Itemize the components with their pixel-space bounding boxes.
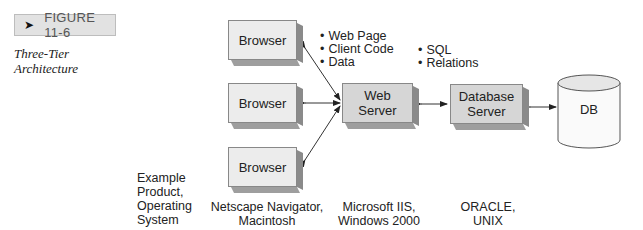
- row-header-line: System: [137, 213, 192, 227]
- browser-label: Browser: [228, 20, 297, 60]
- db-label: DB: [557, 102, 621, 117]
- box-bottom: [231, 187, 300, 193]
- row-header-line: Operating: [137, 199, 192, 213]
- database-tier-line: ORACLE,: [448, 200, 528, 214]
- client-tier-line: Netscape Navigator,: [207, 200, 327, 214]
- database-cylinder: DB: [557, 74, 621, 150]
- arrow-browser3-web: [305, 106, 340, 160]
- box-side: [523, 87, 529, 127]
- web-database-payload-list: SQL Relations: [418, 44, 479, 70]
- web-tier-line: Microsoft IIS,: [334, 200, 424, 214]
- payload-item: Data: [320, 56, 394, 69]
- web-server-line: Web: [364, 88, 391, 103]
- box-side: [297, 150, 303, 190]
- database-tier-line: UNIX: [448, 214, 528, 228]
- client-tier-line: Macintosh: [207, 214, 327, 228]
- box-bottom: [345, 123, 416, 129]
- browser-web-payload-list: Web Page Client Code Data: [320, 30, 394, 69]
- database-tier-label: ORACLE, UNIX: [448, 200, 528, 228]
- row-header-line: Product,: [137, 185, 192, 199]
- box-side: [413, 86, 419, 126]
- client-tier-label: Netscape Navigator, Macintosh: [207, 200, 327, 228]
- payload-item: Relations: [418, 57, 479, 70]
- box-bottom: [231, 60, 300, 66]
- browser-label: Browser: [228, 83, 297, 123]
- web-tier-label: Microsoft IIS, Windows 2000: [334, 200, 424, 228]
- web-server-line: Server: [358, 103, 396, 118]
- box-bottom: [453, 124, 526, 130]
- row-header-label: Example Product, Operating System: [137, 171, 192, 227]
- row-header-line: Example: [137, 171, 192, 185]
- database-server-label: Database Server: [450, 84, 523, 124]
- database-server-line: Server: [467, 104, 505, 119]
- box-side: [297, 86, 303, 126]
- web-server-label: Web Server: [342, 83, 413, 123]
- database-server-line: Database: [459, 89, 515, 104]
- web-tier-line: Windows 2000: [334, 214, 424, 228]
- box-bottom: [231, 123, 300, 129]
- box-side: [297, 23, 303, 63]
- browser-label: Browser: [228, 147, 297, 187]
